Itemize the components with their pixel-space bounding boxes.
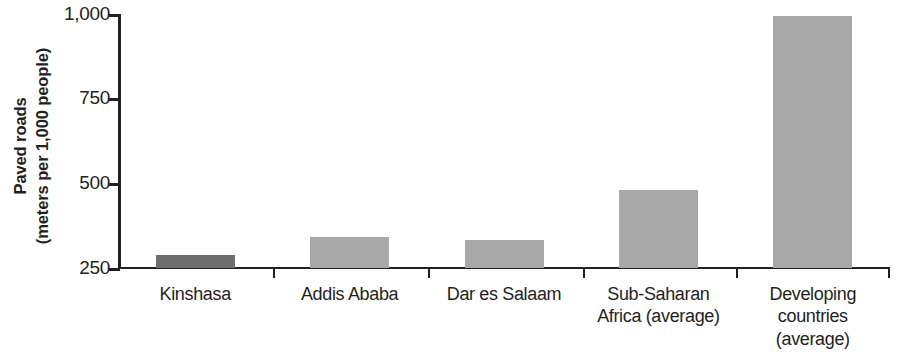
y-tick-label-250: 250	[32, 257, 110, 279]
bar-kinshasa	[156, 255, 235, 268]
paved-roads-bar-chart: Paved roads (meters per 1,000 people) 1,…	[0, 0, 898, 361]
y-tick-label-1000: 1,000	[32, 3, 110, 25]
bar-addis-ababa	[310, 237, 389, 268]
y-axis-tick-labels: 1,000 750 500 250	[30, 0, 110, 361]
y-axis-title-line-1: Paved roads	[10, 97, 32, 194]
x-axis-tick-4	[736, 268, 738, 278]
x-axis-category-labels: KinshasaAddis AbabaDar es SalaamSub-Saha…	[118, 283, 890, 361]
x-label-addis-ababa: Addis Ababa	[272, 283, 426, 305]
x-axis-tick-5	[888, 268, 890, 278]
x-label-sub-saharan-africa-average: Sub-SaharanAfrica (average)	[581, 283, 735, 328]
bar-sub-saharan-africa-average	[619, 190, 698, 268]
x-label-kinshasa: Kinshasa	[118, 283, 272, 305]
plot-area	[118, 14, 890, 268]
x-label-developing-countries-average: Developingcountries(average)	[736, 283, 890, 350]
y-axis-tick-250	[109, 268, 120, 271]
bar-series	[118, 14, 890, 268]
x-axis-tick-1	[273, 268, 275, 278]
y-tick-label-750: 750	[32, 87, 110, 109]
x-axis-tick-3	[583, 268, 585, 278]
bar-dar-es-salaam	[465, 240, 544, 268]
x-axis-tick-2	[428, 268, 430, 278]
y-tick-label-500: 500	[32, 172, 110, 194]
x-label-dar-es-salaam: Dar es Salaam	[427, 283, 581, 305]
bar-developing-countries-average	[773, 16, 852, 268]
